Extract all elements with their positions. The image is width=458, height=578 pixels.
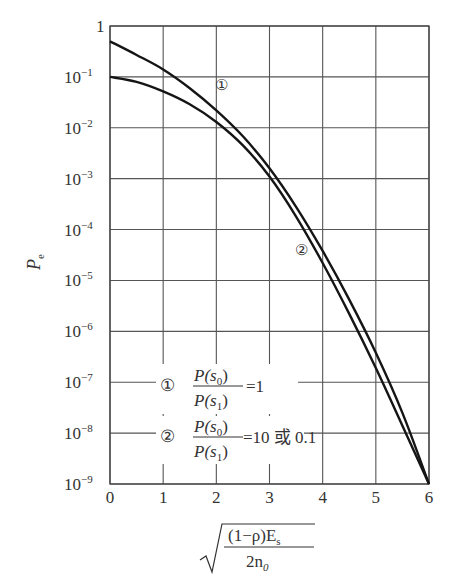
x-axis-label: (1−ρ)Es 2n0	[200, 524, 315, 573]
y-axis-label: Pe	[24, 254, 46, 271]
x-tick-label: 4	[318, 488, 327, 507]
y-tick-label: 10−7	[64, 371, 93, 392]
legend-1-numerator: P(s0)	[193, 366, 228, 387]
x-label-numerator: (1−ρ)Es	[228, 526, 281, 547]
x-tick-label: 1	[159, 488, 168, 507]
x-tick-label: 2	[212, 488, 221, 507]
y-tick-label: 10−9	[64, 473, 93, 494]
legend-2-numerator: P(s0)	[193, 417, 228, 438]
y-tick-label: 10−5	[64, 269, 93, 290]
x-tick-label: 5	[372, 488, 381, 507]
x-tick-label: 6	[425, 488, 434, 507]
x-tick-label: 3	[265, 488, 274, 507]
y-tick-label: 10−1	[64, 66, 93, 87]
y-tick-label: 10−3	[64, 168, 93, 189]
legend-2-marker: ②	[160, 427, 175, 446]
legend-item-2: ② P(s0) P(s1) =10 或 0.1	[156, 416, 316, 464]
y-tick-label: 10−4	[64, 219, 93, 240]
legend-2-denominator: P(s1)	[193, 442, 228, 463]
x-axis-ticks: 0123456	[106, 488, 434, 507]
x-label-denominator: 2n0	[246, 552, 269, 573]
y-tick-label: 10−2	[64, 117, 93, 138]
legend: ① P(s0) P(s1) =1 ② P(s0) P(s1) =10 或 0.1	[156, 364, 316, 464]
y-tick-label: 10−8	[64, 422, 93, 443]
grid-lines	[110, 26, 429, 484]
y-axis-ticks: 110−110−210−310−410−510−610−710−810−9	[64, 17, 105, 494]
curve-2-marker: ②	[295, 242, 308, 258]
chart: 110−110−210−310−410−510−610−710−810−9 01…	[0, 0, 458, 578]
x-tick-label: 0	[106, 488, 115, 507]
y-tick-label: 10−6	[64, 320, 93, 341]
legend-item-1: ① P(s0) P(s1) =1	[156, 364, 298, 414]
legend-1-value: =1	[246, 377, 264, 396]
legend-2-value: =10 或 0.1	[243, 428, 316, 447]
curve-1-marker: ①	[215, 77, 228, 93]
legend-1-denominator: P(s1)	[193, 391, 228, 412]
legend-1-marker: ①	[160, 376, 175, 395]
svg-text:②: ②	[295, 242, 308, 258]
svg-text:①: ①	[215, 77, 228, 93]
y-tick-label: 1	[96, 17, 105, 36]
